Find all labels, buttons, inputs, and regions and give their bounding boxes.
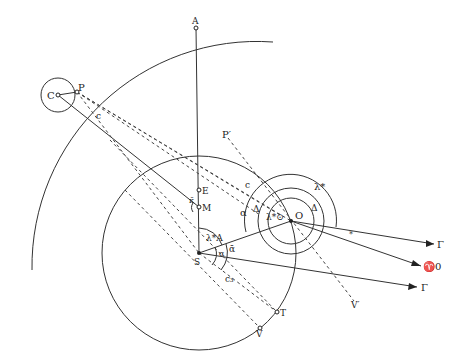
arrowhead-gamma-top [426, 240, 434, 247]
label-lambda-a: λ*A [206, 233, 223, 243]
label-c3: c₃ [225, 274, 234, 284]
dash-p-4 [77, 92, 260, 215]
label-a: A [191, 16, 199, 26]
dash-p-5 [110, 140, 277, 312]
label-kappa: κ̄ [189, 196, 194, 205]
label-delta-right: Δ [311, 203, 318, 213]
dash-p-2 [77, 92, 280, 215]
dash-s-tv [199, 253, 277, 312]
point-m [197, 205, 201, 209]
outer-orbit-arc [32, 41, 273, 270]
point-s [197, 251, 201, 255]
point-c [56, 93, 60, 97]
label-p-prime: P′ [222, 129, 232, 140]
label-c-left: c [96, 111, 101, 121]
label-delta-left: Δ [253, 204, 260, 214]
arrowhead-gamma-bottom [408, 283, 417, 290]
line-c-p [58, 92, 77, 95]
point-o [289, 219, 293, 223]
label-c-right: c [245, 180, 250, 190]
label-t: T [280, 308, 286, 318]
label-v-prime: V′ [350, 300, 360, 310]
label-o: O [295, 210, 303, 221]
point-e [197, 188, 201, 192]
arrow-o-aries [291, 221, 421, 266]
line-a-s [196, 28, 199, 253]
diagram-canvas: A C P c P′ E M κ̄ S λ*A α ᾱ c₃ c α Δ λ*⊙… [0, 0, 457, 362]
point-a [194, 26, 198, 30]
label-e: E [202, 186, 209, 196]
arrow-o-gamma [291, 221, 434, 244]
label-m: M [202, 203, 211, 213]
label-lambda-sun: λ*⊙ [266, 212, 284, 222]
label-alpha-bar: ᾱ [229, 244, 235, 254]
arrowhead-aries [411, 260, 421, 266]
label-alpha: α [240, 207, 247, 218]
label-c: C [47, 90, 55, 101]
label-s: S [194, 257, 200, 267]
label-gamma-bottom: Γ [421, 282, 428, 293]
label-epsilon: * [349, 230, 353, 239]
label-v: V [255, 329, 263, 339]
label-p: P [78, 82, 85, 93]
label-aries0: ♈0 [423, 260, 441, 273]
label-lambda-star: λ* [314, 181, 325, 192]
line-c-m [58, 95, 199, 207]
label-gamma-top: Γ [437, 239, 444, 250]
point-t [275, 310, 279, 314]
label-alpha-small: α [219, 249, 225, 258]
